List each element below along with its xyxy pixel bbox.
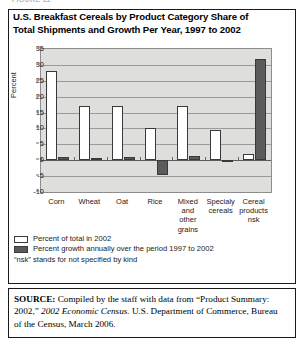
- x-axis-tick-mark: [172, 157, 173, 160]
- source-label: SOURCE:: [14, 294, 55, 304]
- y-axis-tick-mark: [36, 48, 39, 49]
- legend-swatch-growth-icon: [14, 246, 28, 253]
- x-axis-tick-mark: [140, 157, 141, 160]
- y-axis-tick-mark: [36, 95, 39, 96]
- source-italic: 2002 Economic Census.: [41, 306, 130, 316]
- y-axis-tick-label: 30: [18, 59, 44, 68]
- gridline: [41, 113, 271, 114]
- bar: [222, 160, 233, 162]
- gridline: [41, 65, 271, 66]
- y-axis-tick-label: 10: [18, 123, 44, 132]
- x-axis-category-label: Cereal products nsk: [231, 197, 276, 225]
- y-axis-tick-mark: [36, 159, 39, 160]
- bar: [46, 71, 57, 160]
- legend-label-growth: Percent growth annually over the period …: [33, 244, 214, 253]
- legend-note-nsk: “nsk” stands for not specified by kind: [14, 255, 274, 264]
- y-axis-tick-label: 25: [18, 75, 44, 84]
- gridline: [41, 81, 271, 82]
- x-axis-tick-mark: [74, 157, 75, 160]
- y-axis-tick-label: 15: [18, 107, 44, 116]
- gridline: [41, 176, 271, 177]
- bar: [145, 128, 156, 160]
- legend-item-share: Percent of total in 2002: [14, 234, 274, 243]
- chart-legend: Percent of total in 2002 Percent growth …: [14, 234, 274, 264]
- y-axis-tick-label: -10: [18, 187, 44, 196]
- bar: [112, 106, 123, 160]
- bar: [243, 154, 254, 160]
- bar: [124, 157, 135, 160]
- legend-item-growth: Percent growth annually over the period …: [14, 244, 274, 253]
- y-axis-tick-label: 20: [18, 91, 44, 100]
- bar: [210, 130, 221, 160]
- x-axis-tick-mark: [205, 157, 206, 160]
- chart-area: Percent 35302520151050-5-10 CornWheatOat…: [10, 46, 278, 236]
- bar: [189, 156, 200, 160]
- x-axis-tick-mark: [238, 157, 239, 160]
- y-axis-tick-label: 0: [18, 155, 44, 164]
- y-axis-tick-label: 35: [18, 44, 44, 53]
- bar: [177, 106, 188, 160]
- legend-label-share: Percent of total in 2002: [33, 234, 111, 243]
- y-axis-tick-mark: [36, 143, 39, 144]
- gridline: [41, 128, 271, 129]
- bar: [91, 158, 102, 160]
- chart-title: U.S. Breakfast Cereals by Product Catego…: [13, 10, 271, 36]
- bar: [58, 157, 69, 160]
- bar: [79, 106, 90, 160]
- bar: [255, 59, 266, 161]
- gridline: [41, 97, 271, 98]
- y-axis-tick-mark: [36, 175, 39, 176]
- plot-region: [40, 48, 272, 193]
- y-axis-tick-mark: [36, 79, 39, 80]
- y-axis-label: Percent: [9, 72, 18, 98]
- y-axis-tick-label: -5: [18, 171, 44, 180]
- x-axis-tick-mark: [107, 157, 108, 160]
- y-axis-tick-mark: [36, 63, 39, 64]
- source-note: SOURCE: Compiled by the staff with data …: [14, 293, 286, 330]
- bar: [157, 160, 168, 174]
- y-axis-tick-label: 5: [18, 139, 44, 148]
- y-axis-tick-mark: [36, 111, 39, 112]
- legend-swatch-share-icon: [14, 236, 28, 243]
- y-axis-tick-mark: [36, 191, 39, 192]
- figure-number-stub: FIGURE 11: [12, 0, 51, 3]
- gridline: [41, 144, 271, 145]
- y-axis-tick-mark: [36, 127, 39, 128]
